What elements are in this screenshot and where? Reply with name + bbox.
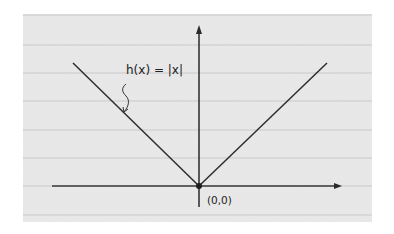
origin-point: [196, 183, 202, 189]
function-label: h(x) = |x|: [126, 63, 183, 77]
origin-label: (0,0): [207, 194, 232, 206]
diagram-canvas: h(x) = |x| (0,0): [0, 0, 394, 234]
